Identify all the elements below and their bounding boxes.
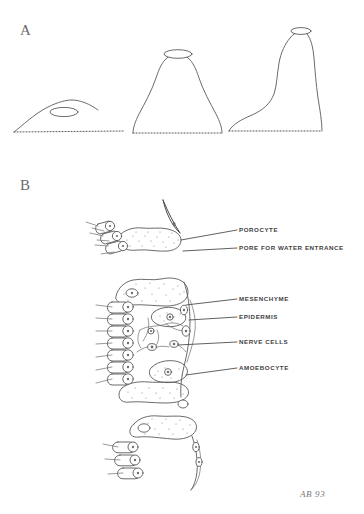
label-group: POROCYTE PORE FOR WATER ENTRANCE MESENCH…	[178, 226, 344, 375]
body-wall-group	[96, 278, 195, 408]
panel-b-letter: B	[20, 177, 31, 193]
choanocyte-cluster-top	[86, 221, 128, 254]
label-epidermis: EPIDERMIS	[239, 313, 278, 320]
drawing-sheet: A B	[0, 0, 364, 514]
choanocyte-cluster-bottom	[103, 442, 143, 479]
label-pore-for-water-entrance: PORE FOR WATER ENTRANCE	[239, 244, 344, 251]
epidermis-cell	[96, 374, 133, 385]
epidermis-cell	[96, 326, 133, 337]
leader-pore	[183, 248, 237, 251]
bottom-cell-group	[103, 416, 202, 490]
top-cell-group	[86, 200, 181, 254]
epidermis-cell	[96, 314, 133, 325]
choanocyte	[103, 442, 138, 453]
epidermis-cell-column	[96, 302, 133, 385]
panel-a-letter: A	[20, 22, 31, 38]
osculum-opening-3	[291, 28, 311, 35]
osculum-opening-2	[164, 50, 192, 59]
figure-asconoid-low-dome	[14, 100, 124, 132]
choanocyte	[108, 468, 143, 479]
panel-a: A	[14, 22, 322, 133]
artist-signature: AB 93	[299, 489, 325, 499]
figure-leuconoid-tall-vase	[229, 28, 322, 131]
epidermis-cell	[96, 362, 133, 373]
vacuole-bottom	[138, 424, 150, 432]
leader-amoebocyte	[186, 368, 237, 375]
leader-nerve-cells	[178, 342, 237, 345]
nerve-cell	[137, 344, 169, 352]
label-porocyte: POROCYTE	[239, 226, 278, 233]
amoebocyte-cell	[149, 361, 187, 383]
figure-syconoid-bell	[133, 50, 222, 133]
mesenchyme-stipple-top	[127, 232, 179, 248]
label-mesenchyme: MESENCHYME	[239, 295, 289, 302]
nerve-cell	[180, 305, 187, 315]
epidermis-cell	[96, 302, 133, 313]
label-amoebocyte: AMOEBOCYTE	[239, 364, 289, 371]
leader-mesenchyme	[186, 299, 237, 305]
choanocyte	[105, 455, 140, 466]
leader-epidermis	[189, 317, 237, 320]
osculum-opening-1	[50, 107, 78, 116]
vacuole-lower	[178, 400, 188, 408]
choanocyte	[95, 241, 128, 254]
nerve-cell	[170, 341, 186, 352]
leader-porocyte	[181, 230, 237, 240]
epidermis-cell	[96, 350, 133, 361]
panel-b: B	[20, 177, 344, 490]
mesenchyme-stipple-lower	[128, 388, 184, 399]
epidermis-cell	[96, 338, 133, 349]
nerve-cell	[182, 326, 190, 336]
label-nerve-cells: NERVE CELLS	[239, 338, 288, 345]
